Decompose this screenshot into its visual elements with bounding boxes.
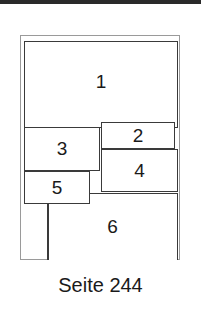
box-6-left-edge xyxy=(47,203,49,260)
layout-box-1: 1 xyxy=(24,41,178,128)
page-caption: Seite 244 xyxy=(0,274,201,297)
layout-box-2: 2 xyxy=(101,122,175,149)
box-3-label: 3 xyxy=(57,138,68,160)
layout-box-4: 4 xyxy=(101,149,178,192)
box-6-label: 6 xyxy=(107,216,118,238)
box-1-label: 1 xyxy=(96,71,107,93)
layout-box-3: 3 xyxy=(24,127,100,171)
top-border-bar xyxy=(0,0,201,4)
box-2-label: 2 xyxy=(133,125,144,147)
layout-box-5: 5 xyxy=(24,171,90,204)
box-5-label: 5 xyxy=(52,177,63,199)
box-4-label: 4 xyxy=(134,160,145,182)
